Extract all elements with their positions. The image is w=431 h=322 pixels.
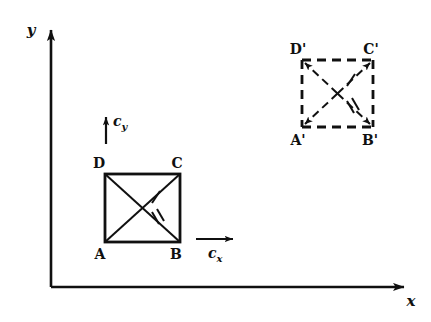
y-axis-label: y — [26, 21, 37, 39]
x-axis-label: x — [406, 292, 417, 310]
c-x-vector-label: cx — [208, 245, 224, 264]
tick-mark-double-db-2 — [157, 209, 164, 221]
vertex-label-d: D — [93, 155, 105, 171]
vertex-label-a-primed: A' — [289, 132, 305, 148]
diagonal-d-b-primed-lower — [338, 94, 371, 125]
c-y-vector: cy — [106, 113, 129, 144]
c-x-vector: cx — [196, 239, 233, 264]
figure-container: y x cy cx A B — [0, 0, 431, 322]
c-y-vector-label: cy — [113, 113, 129, 132]
diagonal-a-c-primed-upper — [338, 63, 371, 94]
diagram-canvas: y x cy cx A B — [0, 0, 431, 322]
diagonal-a-c-primed-lower — [305, 94, 338, 125]
square-abcd: A B C D — [93, 155, 183, 262]
vertex-label-c-primed: C' — [363, 41, 378, 57]
vertex-label-c: C — [171, 155, 182, 171]
vertex-label-d-primed: D' — [290, 41, 306, 57]
tick-mark-single-ac-primed — [347, 74, 355, 86]
tick-mark-double-db-primed-2 — [352, 98, 359, 110]
vertex-label-b-primed: B' — [362, 132, 378, 148]
square-abcd-primed: A' B' C' D' — [289, 41, 378, 148]
vertex-label-a: A — [94, 246, 107, 262]
vertex-label-b: B — [170, 246, 182, 262]
axes-group: y x — [26, 21, 417, 310]
diagonal-d-b-primed-upper — [305, 63, 338, 94]
